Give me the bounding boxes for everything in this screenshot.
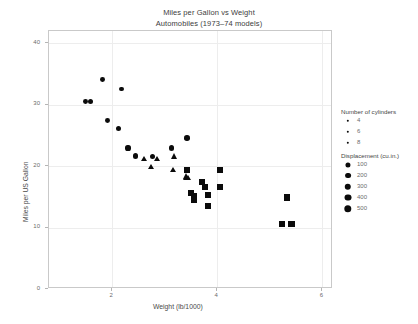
gridline-horizontal (49, 105, 331, 106)
y-tick-mark (45, 165, 48, 166)
data-point (217, 184, 223, 190)
legend-displacement-title: Displacement (cu.in.) (341, 152, 399, 159)
y-tick-label: 10 (20, 223, 40, 229)
data-point (288, 221, 295, 228)
data-point (83, 99, 88, 104)
x-tick-label: 6 (311, 292, 331, 298)
legend-cylinders: Number of cylinders 468 (341, 108, 396, 148)
data-point (169, 145, 174, 150)
y-tick-label: 40 (20, 39, 40, 45)
legend-item-cylinders: 4 (341, 115, 396, 126)
x-tick-label: 4 (206, 292, 226, 298)
data-point (125, 145, 130, 150)
data-point (284, 194, 291, 201)
legend-marker-icon (341, 126, 355, 137)
data-point (116, 126, 121, 131)
chart-title: Miles per Gallon vs Weight Automobiles (… (0, 8, 418, 28)
data-point (205, 203, 211, 209)
x-tick-label: 2 (101, 292, 121, 298)
data-point (133, 153, 138, 158)
data-point (202, 184, 208, 190)
x-tick-mark (216, 288, 217, 291)
data-point (148, 164, 154, 169)
legend-marker-icon (341, 203, 355, 214)
legend-item-displacement: 300 (341, 181, 399, 192)
legend-item-label: 500 (357, 205, 367, 211)
data-point (100, 77, 105, 82)
x-axis-label: Weight (lb/1000) (153, 303, 203, 310)
legend-marker-icon (341, 192, 355, 203)
data-point (191, 193, 197, 199)
gridline-horizontal (49, 43, 331, 44)
legend-marker-icon (341, 159, 355, 170)
legend-marker-icon (341, 137, 355, 148)
legend-displacement: Displacement (cu.in.) 100200300400500 (341, 152, 399, 214)
data-point (184, 167, 190, 173)
gridline-vertical (217, 31, 218, 287)
y-tick-mark (45, 42, 48, 43)
legend-item-label: 6 (357, 128, 360, 134)
legend-item-cylinders: 6 (341, 126, 396, 137)
legend-item-label: 8 (357, 139, 360, 145)
legend-item-label: 100 (357, 161, 367, 167)
legend-item-label: 400 (357, 194, 367, 200)
y-tick-label: 0 (20, 285, 40, 291)
y-tick-mark (45, 288, 48, 289)
legend-item-label: 300 (357, 183, 367, 189)
data-point (170, 167, 176, 172)
legend-marker-icon (341, 170, 355, 181)
chart-subtitle: Automobiles (1973–74 models) (0, 19, 418, 28)
x-tick-mark (321, 288, 322, 291)
data-point (171, 153, 177, 159)
plot-area (48, 30, 332, 288)
legend-item-label: 200 (357, 172, 367, 178)
x-tick-mark (111, 288, 112, 291)
legend-item-displacement: 100 (341, 159, 399, 170)
y-axis-label: Miles per US Gallon (22, 162, 29, 222)
data-point (185, 175, 191, 180)
gridline-horizontal (49, 228, 331, 229)
y-tick-mark (45, 104, 48, 105)
legend-item-label: 4 (357, 117, 360, 123)
y-tick-mark (45, 227, 48, 228)
y-tick-label: 30 (20, 100, 40, 106)
data-point (105, 118, 110, 123)
legend-item-cylinders: 8 (341, 137, 396, 148)
chart-canvas: Miles per Gallon vs Weight Automobiles (… (0, 0, 418, 324)
legend-marker-icon (341, 115, 355, 126)
legend-item-displacement: 500 (341, 203, 399, 214)
data-point (217, 167, 223, 173)
legend-cylinders-title: Number of cylinders (341, 108, 396, 115)
legend-item-displacement: 200 (341, 170, 399, 181)
data-point (141, 156, 147, 161)
legend-item-displacement: 400 (341, 192, 399, 203)
data-point (154, 156, 160, 161)
data-point (205, 192, 211, 198)
data-point (184, 135, 189, 140)
gridline-horizontal (49, 166, 331, 167)
legend-marker-icon (341, 181, 355, 192)
gridline-vertical (112, 31, 113, 287)
chart-title-line1: Miles per Gallon vs Weight (163, 8, 255, 17)
gridline-vertical (322, 31, 323, 287)
data-point (279, 221, 286, 228)
